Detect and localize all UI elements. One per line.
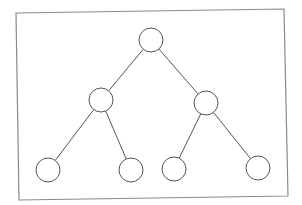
edge-left-to-left-left (55, 110, 94, 161)
tree-node-right-right (246, 156, 270, 180)
tree-edges (55, 49, 250, 160)
edge-right-to-right-right (213, 112, 250, 158)
edge-root-to-left (109, 49, 144, 91)
tree-node-root (139, 28, 163, 52)
tree-node-left-left (36, 158, 60, 182)
tree-node-left (89, 88, 113, 112)
edge-right-to-right-left (179, 114, 201, 158)
tree-node-right-left (162, 157, 186, 181)
tree-node-right (194, 91, 218, 115)
edge-left-to-left-right (106, 111, 127, 159)
edge-root-to-right (159, 49, 198, 94)
binary-tree-diagram (0, 0, 302, 205)
tree-nodes (36, 28, 270, 182)
tree-node-left-right (119, 158, 143, 182)
